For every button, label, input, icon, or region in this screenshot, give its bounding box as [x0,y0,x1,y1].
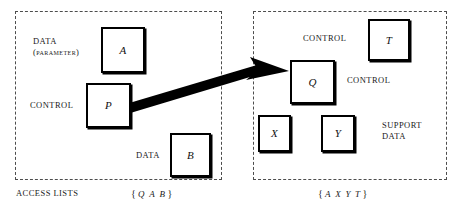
set-member-right-3: T [355,189,360,199]
caption-control-top-right: CONTROL [303,33,346,44]
object-box-x-label: X [271,128,278,139]
set-close-brace-right: } [363,188,368,199]
object-box-p[interactable]: P [86,83,131,128]
set-notation-right: {AXYT} [318,188,367,199]
object-box-y-label: Y [335,128,341,139]
caption-data-parameter: DATA (parameter) [33,36,79,58]
object-box-t-label: T [386,35,392,46]
figure-canvas: DATA (parameter) CONTROL DATA A P B CONT… [0,0,463,212]
object-box-q-label: Q [308,77,316,88]
object-box-x[interactable]: X [258,115,291,152]
set-open-brace-right: { [318,188,323,199]
caption-control-mid-right: CONTROL [347,75,390,86]
set-member-right-0: A [325,189,331,199]
object-box-y[interactable]: Y [321,115,355,152]
set-close-brace-left: } [167,188,172,199]
set-member-left-1: A [149,189,155,199]
set-member-left-2: B [159,189,165,199]
object-box-t[interactable]: T [368,19,410,61]
set-member-left-0: Q [138,189,145,199]
object-box-b-label: B [187,150,194,161]
set-member-right-2: Y [345,189,350,199]
set-open-brace-left: { [131,188,136,199]
object-box-a[interactable]: A [101,27,145,73]
caption-support-data: SUPPORT DATA [382,120,422,142]
object-box-p-label: P [105,100,112,111]
object-box-a-label: A [120,45,127,56]
object-box-q[interactable]: Q [290,60,335,104]
set-notation-left: {QAB} [131,188,172,199]
footer-label-access-lists: ACCESS LISTS [16,188,78,198]
caption-control-left: CONTROL [30,100,73,111]
set-member-right-1: X [335,189,341,199]
caption-data-left: DATA [136,150,160,161]
object-box-b[interactable]: B [170,133,211,177]
domain-panel-right [253,11,447,180]
